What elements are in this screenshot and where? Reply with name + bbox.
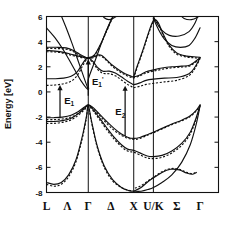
band-curve [47,52,201,78]
x-tick-label: Γ [196,200,203,212]
transition-label: E2 [115,106,125,118]
x-tick-label: Λ [63,200,72,212]
transition-label-subscript: 1 [71,100,75,107]
transition-E2: E2 [115,86,127,136]
y-axis-ticks: 6420-2-4-6-8 [35,13,218,198]
x-axis-ticks: LΛΓΔXU/KΣΓ [43,200,204,212]
y-axis-title-group: Energy [eV] [3,79,13,129]
y-tick-label: 2 [38,63,43,72]
x-tick-label: X [130,200,139,212]
transition-label: E1 [64,95,74,107]
y-tick-label: -2 [35,113,43,122]
transition-label: E1' [92,76,104,88]
y-tick-label: 0 [38,88,43,97]
y-tick-label: -8 [35,189,43,198]
band-curve [153,18,200,47]
x-tick-label: Δ [107,200,115,212]
transition-E1: E1 [57,85,74,118]
y-axis-title: Energy [eV] [3,79,13,129]
x-tick-label: Γ [85,200,92,212]
y-tick-label: 4 [38,38,43,47]
y-tick-label: -6 [35,163,43,172]
transition-label-subscript: 2 [122,112,126,119]
band-structure-figure: Energy [eV] 6420-2-4-6-8 LΛΓΔXU/KΣΓ E1E1… [0,0,227,230]
symmetry-point-lines [88,17,153,193]
y-tick-label: -4 [35,138,43,147]
x-tick-label: Σ [173,200,181,212]
transition-label-prime: ' [102,76,104,83]
y-tick-label: 6 [38,13,43,22]
x-tick-label: U/K [143,200,164,212]
band-curve [134,20,200,78]
x-tick-label: L [43,200,51,212]
arrow-head-icon [123,86,128,91]
band-structure-plot: Energy [eV] 6420-2-4-6-8 LΛΓΔXU/KΣΓ E1E1… [0,0,227,230]
band-curve [47,105,201,139]
arrow-head-icon [57,85,62,90]
